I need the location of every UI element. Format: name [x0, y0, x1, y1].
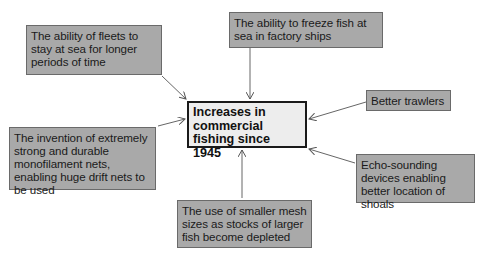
- cause-freeze-label: The ability to freeze fish at sea in fac…: [234, 16, 366, 42]
- cause-echo-label: Echo-sounding devices enabling better lo…: [361, 158, 446, 210]
- cause-freeze: The ability to freeze fish at sea in fac…: [229, 12, 383, 48]
- arrow-trawlers: [309, 102, 366, 119]
- cause-fleets: The ability of fleets to stay at sea for…: [26, 25, 162, 75]
- arrow-nets: [158, 119, 185, 126]
- arrow-fleets: [162, 76, 186, 99]
- cause-nets-label: The invention of extremely strong and du…: [14, 131, 147, 196]
- cause-nets: The invention of extremely strong and du…: [9, 127, 156, 190]
- cause-echo: Echo-sounding devices enabling better lo…: [356, 154, 475, 203]
- central-topic: Increases in commercial fishing since 19…: [187, 101, 307, 148]
- cause-mesh-label: The use of smaller mesh sizes as stocks …: [182, 204, 307, 243]
- cause-mesh: The use of smaller mesh sizes as stocks …: [177, 200, 312, 248]
- cause-trawlers-label: Better trawlers: [371, 94, 444, 107]
- cause-fleets-label: The ability of fleets to stay at sea for…: [31, 29, 138, 68]
- cause-trawlers: Better trawlers: [366, 90, 451, 111]
- arrow-echo: [309, 149, 355, 163]
